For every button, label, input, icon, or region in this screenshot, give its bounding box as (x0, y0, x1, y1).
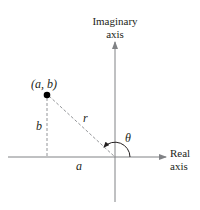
real-axis-label-line1: Real (170, 148, 190, 159)
a-label: a (76, 161, 82, 172)
r-label: r (83, 113, 88, 124)
real-axis-label-line2: axis (170, 161, 190, 172)
point-label: (a, b) (31, 79, 57, 90)
real-axis-label: Real axis (170, 148, 190, 172)
imaginary-axis-label-line2: axis (90, 29, 140, 40)
point-a-b (44, 92, 51, 99)
r-segment (49, 96, 115, 157)
imaginary-axis-label-line1: Imaginary (90, 16, 140, 27)
theta-label: θ (125, 133, 131, 144)
imaginary-axis-label: Imaginary axis (90, 16, 140, 40)
b-label: b (36, 121, 42, 132)
